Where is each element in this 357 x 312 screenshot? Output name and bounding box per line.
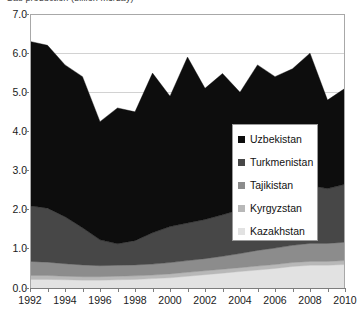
legend-label: Turkmenistan	[250, 157, 313, 168]
x-tick-mark	[188, 288, 189, 292]
x-tick-mark	[223, 288, 224, 292]
y-tick-label: 4.0	[1, 126, 27, 136]
legend-item-uzbekistan: Uzbekistan	[238, 132, 302, 146]
x-tick-mark	[310, 288, 311, 292]
x-tick-mark	[65, 288, 66, 292]
x-tick-mark	[275, 288, 276, 292]
y-tick-label: 6.0	[1, 48, 27, 58]
x-tick-mark	[30, 288, 31, 292]
legend-swatch-icon	[238, 159, 245, 166]
x-axis: 1992199419961998200020022004200620082010	[0, 288, 348, 312]
x-tick-label: 1992	[18, 294, 41, 306]
plot-border-right	[344, 14, 345, 289]
x-tick-mark	[345, 288, 346, 292]
y-tick-mark	[25, 14, 29, 15]
x-tick-mark	[170, 288, 171, 292]
x-tick-mark	[118, 288, 119, 292]
plot-border-top	[30, 14, 345, 15]
x-tick-label: 2000	[158, 294, 181, 306]
x-tick-mark	[48, 288, 49, 292]
legend-label: Kazakhstan	[250, 226, 305, 237]
x-tick-label: 2006	[263, 294, 286, 306]
x-tick-mark	[293, 288, 294, 292]
legend-label: Kyrgyzstan	[250, 203, 302, 214]
y-tick-label: 2.0	[1, 204, 27, 214]
y-tick-label: 1.0	[1, 243, 27, 253]
legend-swatch-icon	[238, 136, 245, 143]
legend-swatch-icon	[238, 182, 245, 189]
y-tick-mark	[25, 92, 29, 93]
y-tick-mark	[25, 170, 29, 171]
legend-label: Uzbekistan	[250, 134, 302, 145]
chart-legend: Uzbekistan Turkmenistan Tajikistan Kyrgy…	[232, 124, 318, 241]
x-tick-mark	[135, 288, 136, 292]
y-tick-mark	[25, 53, 29, 54]
y-axis: 7.0 6.0 5.0 4.0 3.0 2.0 1.0 0.0	[0, 0, 27, 312]
x-tick-label: 1994	[53, 294, 76, 306]
x-tick-label: 2002	[193, 294, 216, 306]
y-tick-label: 3.0	[1, 165, 27, 175]
x-tick-label: 2010	[333, 294, 356, 306]
y-tick-mark	[25, 248, 29, 249]
legend-item-kazakhstan: Kazakhstan	[238, 224, 305, 238]
plot-border-left	[30, 14, 31, 289]
x-tick-label: 1996	[88, 294, 111, 306]
x-tick-label: 2004	[228, 294, 251, 306]
x-tick-mark	[205, 288, 206, 292]
x-tick-mark	[240, 288, 241, 292]
x-tick-label: 2008	[298, 294, 321, 306]
legend-item-kyrgyzstan: Kyrgyzstan	[238, 201, 302, 215]
x-tick-mark	[83, 288, 84, 292]
x-tick-mark	[328, 288, 329, 292]
legend-swatch-icon	[238, 228, 245, 235]
y-tick-label: 5.0	[1, 87, 27, 97]
x-tick-mark	[153, 288, 154, 292]
legend-item-turkmenistan: Turkmenistan	[238, 155, 313, 169]
legend-item-tajikistan: Tajikistan	[238, 178, 293, 192]
y-tick-label: 7.0	[1, 9, 27, 19]
x-tick-mark	[258, 288, 259, 292]
legend-label: Tajikistan	[250, 180, 293, 191]
x-tick-mark	[100, 288, 101, 292]
y-tick-mark	[25, 209, 29, 210]
x-tick-label: 1998	[123, 294, 146, 306]
y-tick-mark	[25, 131, 29, 132]
legend-swatch-icon	[238, 205, 245, 212]
